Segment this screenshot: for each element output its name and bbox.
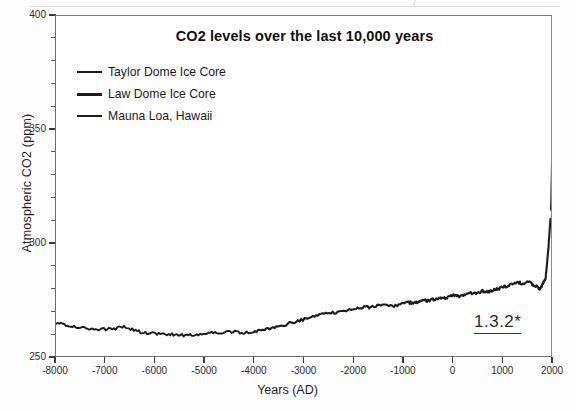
x-tick bbox=[54, 357, 55, 363]
scan-artifact-line bbox=[30, 6, 560, 7]
x-tick bbox=[452, 357, 453, 363]
x-tick-label: -7000 bbox=[82, 365, 128, 376]
x-tick bbox=[154, 357, 155, 363]
x-tick bbox=[104, 357, 105, 363]
plot-area: CO2 levels over the last 10,000 years Ta… bbox=[55, 15, 552, 357]
series-line bbox=[551, 50, 552, 209]
data-series-lines bbox=[56, 16, 552, 357]
x-tick-label: -8000 bbox=[32, 365, 78, 376]
x-tick-label: 0 bbox=[430, 365, 476, 376]
series-line bbox=[56, 323, 255, 337]
y-tick-label: 350 bbox=[16, 123, 46, 134]
y-tick-label: 400 bbox=[16, 9, 46, 20]
y-tick-label: 250 bbox=[16, 351, 46, 362]
x-tick-label: -5000 bbox=[181, 365, 227, 376]
x-tick bbox=[303, 357, 304, 363]
y-tick-label: 300 bbox=[16, 237, 46, 248]
x-axis-title: Years (AD) bbox=[0, 383, 575, 397]
x-tick-label: -3000 bbox=[281, 365, 327, 376]
x-tick bbox=[203, 357, 204, 363]
x-tick bbox=[551, 357, 552, 363]
scan-artifact-mark bbox=[413, 0, 426, 9]
x-tick-label: -6000 bbox=[131, 365, 177, 376]
x-tick bbox=[502, 357, 503, 363]
x-tick bbox=[402, 357, 403, 363]
x-tick bbox=[353, 357, 354, 363]
figure-number-annotation: 1.3.2* bbox=[474, 312, 521, 334]
x-tick-label: -1000 bbox=[380, 365, 426, 376]
x-tick-label: -2000 bbox=[330, 365, 376, 376]
x-tick-label: 1000 bbox=[479, 365, 525, 376]
chart-figure: Atmospheric CO2 (ppm) Years (AD) 4003503… bbox=[0, 0, 575, 411]
x-tick-label: 2000 bbox=[529, 365, 575, 376]
x-tick-label: -4000 bbox=[231, 365, 277, 376]
x-tick bbox=[253, 357, 254, 363]
